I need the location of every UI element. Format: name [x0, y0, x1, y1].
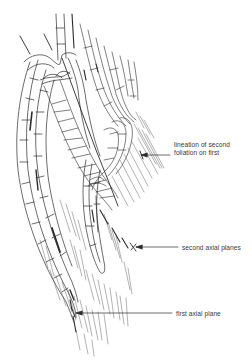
inner-fold: [83, 160, 105, 273]
callout-arrows: [72, 151, 178, 317]
fold-diagram: lineation of second foliation on first s…: [0, 0, 252, 363]
lineation-label-line1: lineation of second: [174, 141, 230, 149]
first-axial-plane-label: first axial plane: [176, 310, 221, 318]
second-foliation-lines: [40, 112, 164, 356]
second-axial-planes-label: second axial planes: [182, 244, 241, 252]
second-fold-right: [88, 118, 132, 190]
lineation-label-line2: foliation on first: [174, 149, 230, 157]
lineation-label: lineation of second foliation on first: [174, 141, 230, 157]
fold-drawing: [0, 0, 252, 363]
right-fold-layers: [80, 24, 138, 126]
outer-fold-layers: [17, 60, 78, 322]
